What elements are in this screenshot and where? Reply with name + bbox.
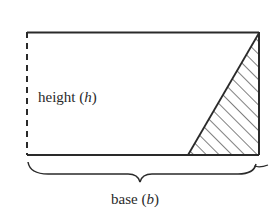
base-label-text: base (111, 191, 138, 207)
height-label-text: height (38, 89, 76, 105)
base-variable: b (146, 191, 154, 207)
base-brace (28, 162, 256, 182)
base-label: base (b) (111, 192, 159, 207)
height-variable: h (84, 89, 92, 105)
figure (0, 0, 274, 218)
height-label: height (h) (38, 90, 97, 105)
